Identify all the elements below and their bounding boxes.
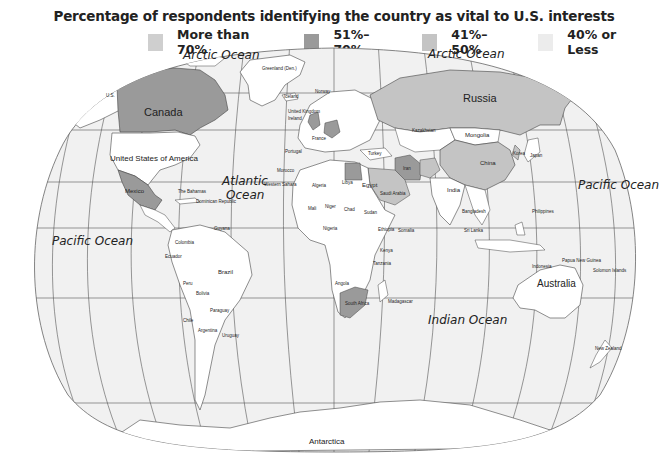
- country-label-morocco: Morocco: [277, 168, 295, 173]
- country-label-angola: Angola: [335, 281, 350, 286]
- egypt-shape: [345, 163, 362, 180]
- country-label-paraguay: Paraguay: [210, 308, 230, 313]
- country-label-egypt: Egypt: [362, 182, 378, 188]
- country-label-bolivia: Bolivia: [196, 291, 210, 296]
- country-label-usa: United States of America: [110, 154, 199, 163]
- country-label-png: Papua New Guinea: [562, 258, 602, 263]
- country-label-bangladesh: Bangladesh: [462, 209, 486, 214]
- country-label-nigeria: Nigeria: [323, 226, 338, 231]
- world-map: Arctic Ocean Arctic Ocean Atlantic Ocean…: [0, 0, 668, 467]
- country-label-colombia: Colombia: [175, 240, 195, 245]
- ocean-label-arctic-west: Arctic Ocean: [182, 48, 260, 62]
- country-label-peru: Peru: [183, 281, 193, 286]
- country-label-canada: Canada: [144, 106, 183, 118]
- country-label-india: India: [447, 187, 461, 193]
- country-label-turkey: Turkey: [368, 151, 382, 156]
- country-label-sudan: Sudan: [364, 210, 378, 215]
- country-label-bahamas: The Bahamas: [178, 189, 207, 194]
- country-label-mexico: Mexico: [125, 188, 145, 194]
- country-label-ecuador: Ecuador: [165, 254, 182, 259]
- country-label-tanzania: Tanzania: [373, 261, 392, 266]
- country-label-madagascar: Madagascar: [388, 299, 413, 304]
- country-label-australia: Australia: [537, 278, 576, 289]
- country-label-chad: Chad: [344, 207, 355, 212]
- country-label-mongolia: Mongolia: [465, 132, 490, 138]
- country-label-algeria: Algeria: [312, 183, 327, 188]
- ocean-label-arctic-east: Arctic Ocean: [427, 47, 505, 61]
- country-label-south-africa: South Africa: [345, 301, 370, 306]
- country-label-solomon: Solomon Islands: [593, 268, 627, 273]
- country-label-uk: United Kingdom: [288, 109, 320, 114]
- country-label-chile: Chile: [183, 318, 194, 323]
- country-label-sri-lanka: Sri Lanka: [464, 228, 484, 233]
- country-label-france: France: [312, 136, 327, 141]
- country-label-japan: Japan: [530, 153, 543, 158]
- country-label-ethiopia: Ethiopia: [378, 227, 395, 232]
- country-label-somalia: Somalia: [398, 228, 415, 233]
- country-label-guyana: Guyana: [214, 226, 230, 231]
- ocean-label-pacific-west: Pacific Ocean: [52, 234, 133, 248]
- country-label-saudi: Saudi Arabia: [380, 191, 406, 196]
- country-label-western-sahara: Western Sahara: [264, 182, 297, 187]
- country-label-portugal: Portugal: [285, 149, 302, 154]
- country-label-mali: Mali: [308, 206, 316, 211]
- country-label-iran: Iran: [403, 166, 411, 171]
- country-label-philippines: Philippines: [532, 209, 555, 214]
- country-label-us-alaska: U.S.: [106, 93, 115, 98]
- country-label-libya: Libya: [342, 180, 353, 185]
- country-label-niger: Niger: [325, 204, 336, 209]
- country-label-norway: Norway: [315, 89, 331, 94]
- ocean-label-atlantic-1: Atlantic: [221, 174, 268, 188]
- country-label-uruguay: Uruguay: [222, 333, 240, 338]
- country-label-indonesia: Indonesia: [532, 264, 552, 269]
- country-label-ireland: Ireland: [288, 116, 302, 121]
- country-label-russia: Russia: [463, 92, 498, 104]
- ocean-label-pacific-east: Pacific Ocean: [578, 178, 659, 192]
- country-label-korea: Korea: [513, 151, 526, 156]
- ocean-label-indian: Indian Ocean: [428, 313, 507, 327]
- country-label-brazil: Brazil: [218, 269, 233, 275]
- country-label-china: China: [480, 160, 496, 166]
- country-label-new-zealand: New Zealand: [595, 346, 622, 351]
- country-label-kazakhstan: Kazakhstan: [412, 128, 436, 133]
- country-label-antarctica: Antarctica: [309, 437, 345, 446]
- country-label-iceland: Iceland: [284, 94, 299, 99]
- country-label-kenya: Kenya: [380, 248, 393, 253]
- country-label-dominican: Dominican Republic: [196, 199, 237, 204]
- country-label-argentina: Argentina: [198, 328, 218, 333]
- country-label-greenland: Greenland (Den.): [262, 66, 297, 71]
